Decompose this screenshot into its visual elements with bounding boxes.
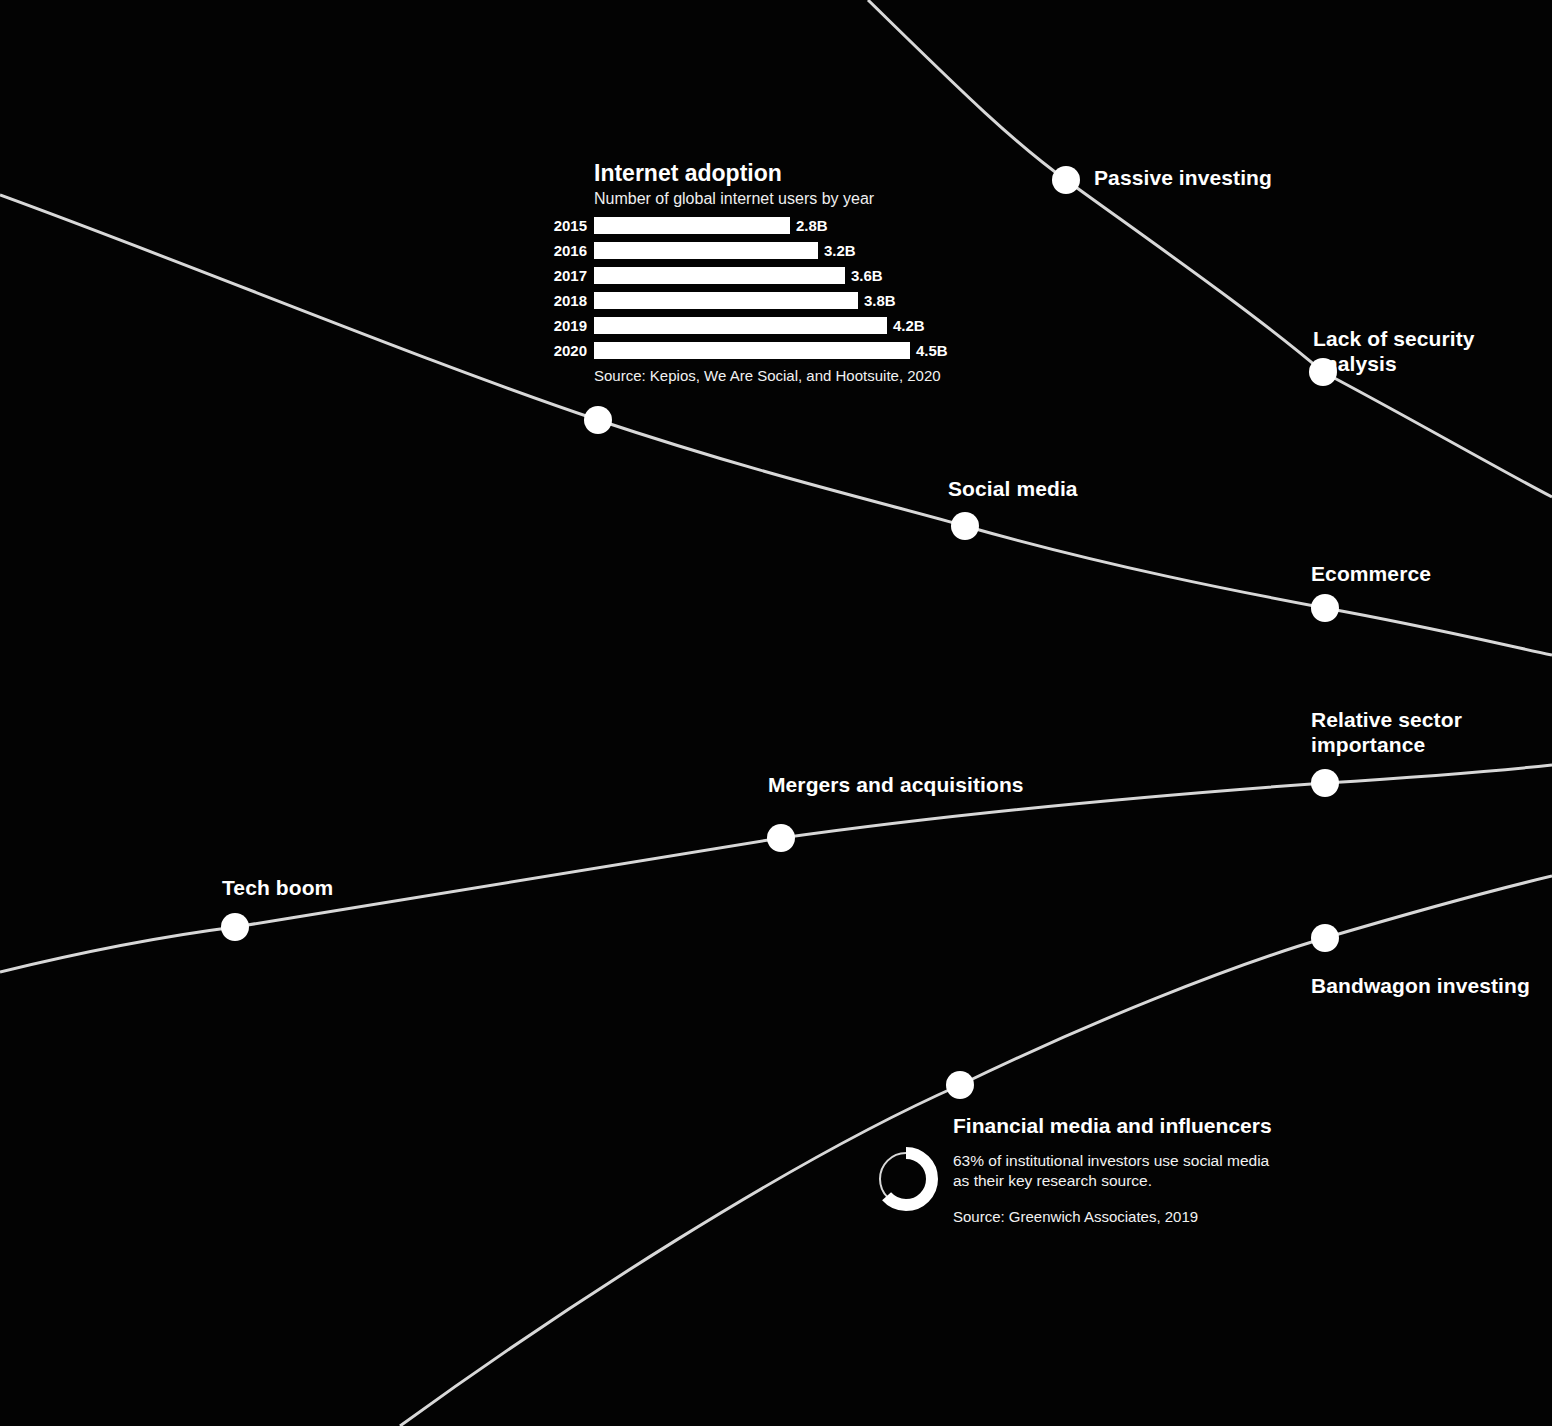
bar-value-label: 3.2B [824,242,856,259]
bar-chart-rows: 20152.8B20163.2B20173.6B20183.8B20194.2B… [594,217,964,359]
node-financial-media[interactable] [946,1071,974,1099]
donut-card-body: 63% of institutional investors use socia… [953,1151,1283,1225]
infographic-canvas: Passive investing Lack of security analy… [0,0,1552,1426]
donut-card-source: Source: Greenwich Associates, 2019 [953,1208,1283,1225]
internet-adoption-chart-card: Internet adoption Number of global inter… [594,160,964,384]
bar-year-label: 2020 [540,342,587,359]
bar-track: 2.8B [594,217,828,234]
bar-row: 20183.8B [594,292,964,309]
bar-row: 20204.5B [594,342,964,359]
curve-passive-investing [868,0,1552,497]
bar-chart-title: Internet adoption [594,160,964,186]
donut-chart-svg [873,1146,939,1212]
bar-year-label: 2016 [540,242,587,259]
bar-fill [594,242,818,259]
bar-value-label: 4.5B [916,342,948,359]
bar-track: 4.5B [594,342,948,359]
node-social-media[interactable] [951,512,979,540]
bar-track: 3.8B [594,292,896,309]
node-passive-investing[interactable] [1052,166,1080,194]
node-bandwagon-investing[interactable] [1311,924,1339,952]
donut-card-stat: 63% of institutional investors use socia… [953,1151,1283,1191]
bar-year-label: 2015 [540,217,587,234]
label-passive-investing: Passive investing [1094,165,1272,190]
node-relative-sector[interactable] [1311,769,1339,797]
financial-media-card: Financial media and influencers 63% of i… [953,1113,1283,1225]
bar-fill [594,342,910,359]
label-ecommerce: Ecommerce [1311,561,1431,586]
node-ecommerce[interactable] [1311,594,1339,622]
bar-value-label: 4.2B [893,317,925,334]
bar-value-label: 3.6B [851,267,883,284]
bar-row: 20194.2B [594,317,964,334]
bar-chart-source: Source: Kepios, We Are Social, and Hoots… [594,367,964,384]
bar-year-label: 2018 [540,292,587,309]
bar-year-label: 2017 [540,267,587,284]
bar-chart-subtitle: Number of global internet users by year [594,189,964,208]
label-relative-sector: Relative sector importance [1311,707,1462,757]
bar-row: 20163.2B [594,242,964,259]
bar-fill [594,292,858,309]
node-internet-adoption[interactable] [584,406,612,434]
bar-fill [594,317,887,334]
bar-year-label: 2019 [540,317,587,334]
label-bandwagon-investing: Bandwagon investing [1311,973,1530,998]
bar-track: 3.6B [594,267,883,284]
bar-row: 20152.8B [594,217,964,234]
label-social-media: Social media [948,476,1078,501]
bar-value-label: 2.8B [796,217,828,234]
label-tech-boom: Tech boom [222,875,333,900]
bar-fill [594,267,845,284]
bar-track: 3.2B [594,242,856,259]
bar-track: 4.2B [594,317,925,334]
bar-value-label: 3.8B [864,292,896,309]
label-mergers-acquisitions: Mergers and acquisitions [768,772,1024,797]
bar-row: 20173.6B [594,267,964,284]
node-tech-boom[interactable] [221,913,249,941]
bar-fill [594,217,790,234]
label-lack-of-security: Lack of security analysis [1313,326,1552,376]
donut-card-title: Financial media and influencers [953,1113,1283,1138]
donut-chart [873,1146,939,1212]
node-mergers-acquisitions[interactable] [767,824,795,852]
